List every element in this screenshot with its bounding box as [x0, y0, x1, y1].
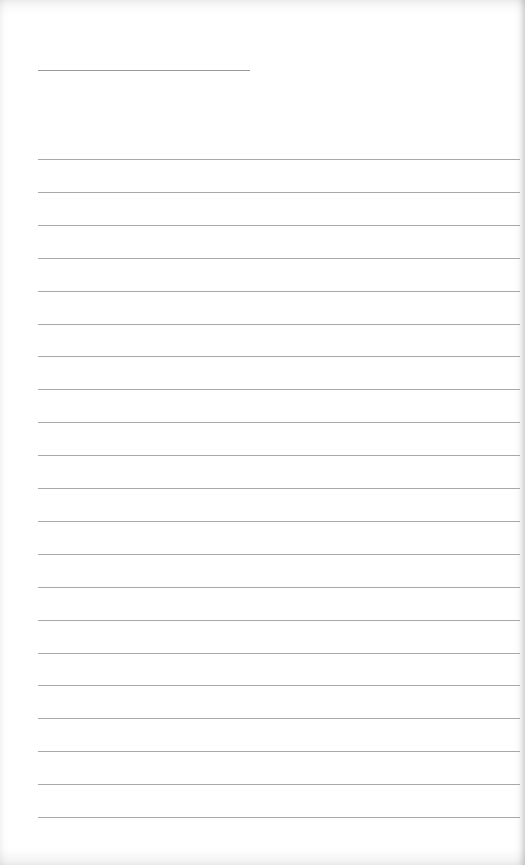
ruled-line: [38, 291, 520, 292]
title-line: [38, 70, 250, 71]
ruled-line: [38, 356, 520, 357]
ruled-line: [38, 159, 520, 160]
ruled-line: [38, 751, 520, 752]
ruled-line: [38, 422, 520, 423]
ruled-line: [38, 324, 520, 325]
ruled-line: [38, 685, 520, 686]
ruled-line: [38, 620, 520, 621]
ruled-line: [38, 718, 520, 719]
paper-edge-shadow: [519, 0, 525, 865]
ruled-line: [38, 554, 520, 555]
ruled-line: [38, 389, 520, 390]
ruled-line: [38, 817, 520, 818]
ruled-line: [38, 653, 520, 654]
ruled-line: [38, 784, 520, 785]
ruled-line: [38, 192, 520, 193]
ruled-line: [38, 521, 520, 522]
lined-paper: [0, 0, 525, 865]
ruled-line: [38, 225, 520, 226]
ruled-line: [38, 587, 520, 588]
ruled-line: [38, 455, 520, 456]
ruled-line: [38, 258, 520, 259]
ruled-line: [38, 488, 520, 489]
